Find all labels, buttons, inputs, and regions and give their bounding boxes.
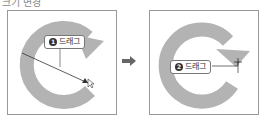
step-number-icon: 2	[175, 63, 183, 71]
section-heading: 크기 변경	[2, 0, 41, 9]
step-label: 드래그	[185, 61, 206, 73]
step-badge-1: 1 드래그	[44, 35, 85, 49]
after-frame: 2 드래그	[149, 10, 259, 115]
step-label: 드래그	[59, 36, 80, 48]
cursor-icon	[88, 79, 94, 88]
before-frame: 1 드래그	[7, 10, 117, 115]
step-number-icon: 1	[49, 38, 57, 46]
circular-arrow-shape-before	[8, 11, 118, 116]
right-arrow-icon	[122, 56, 136, 66]
step-badge-2: 2 드래그	[170, 60, 211, 74]
